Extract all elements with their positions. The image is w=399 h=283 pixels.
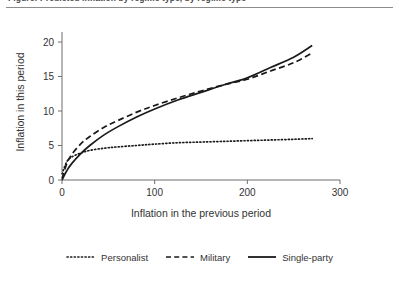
svg-text:0: 0: [59, 187, 65, 198]
series-line-personalist: [62, 139, 312, 174]
legend-item-single-party: Single-party: [247, 252, 333, 263]
legend-label-personalist: Personalist: [101, 252, 148, 263]
chart-series-group: [62, 45, 312, 180]
caption-divider-rule: [6, 7, 393, 8]
chart-legend: Personalist Military Single-party: [0, 246, 399, 268]
svg-text:15: 15: [43, 71, 55, 82]
legend-swatch-solid-icon: [247, 253, 277, 261]
legend-label-single-party: Single-party: [282, 252, 333, 263]
legend-swatch-dotted-icon: [66, 253, 96, 261]
legend-item-personalist: Personalist: [66, 252, 148, 263]
x-axis-tick-labels: 0100200300: [59, 187, 349, 198]
y-axis-title: Inflation in this period: [14, 52, 26, 151]
figure-caption-text: Figure: Predicted inflation by regime ty…: [8, 0, 246, 3]
x-axis-ticks: [62, 180, 340, 184]
series-line-single-party: [62, 45, 312, 180]
line-chart-svg: 05101520 0100200300 Inflation in this pe…: [0, 10, 399, 240]
svg-text:300: 300: [332, 187, 349, 198]
legend-label-military: Military: [200, 252, 230, 263]
y-axis-tick-labels: 05101520: [43, 37, 55, 186]
x-axis-title: Inflation in the previous period: [131, 207, 271, 219]
svg-text:20: 20: [43, 37, 55, 48]
chart-plot-area: 05101520 0100200300 Inflation in this pe…: [0, 10, 399, 240]
y-axis-ticks: [58, 42, 62, 180]
svg-text:5: 5: [48, 140, 54, 151]
svg-text:10: 10: [43, 106, 55, 117]
svg-text:0: 0: [48, 175, 54, 186]
svg-text:200: 200: [239, 187, 256, 198]
series-line-military: [62, 53, 312, 179]
legend-swatch-dashed-icon: [165, 253, 195, 261]
legend-item-military: Military: [165, 252, 230, 263]
svg-text:100: 100: [146, 187, 163, 198]
figure-panel: Figure: Predicted inflation by regime ty…: [0, 0, 399, 283]
